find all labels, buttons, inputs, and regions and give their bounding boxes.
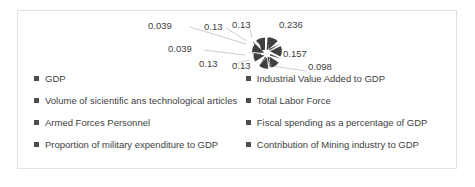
legend-bullet-icon [34, 142, 39, 147]
legend-item-label: Industrial Value Added to GDP [257, 73, 385, 84]
data-label-2: 0.13 [204, 22, 223, 32]
legend-item-label: Fiscal spending as a percentage of GDP [257, 117, 428, 128]
legend-item-label: GDP [45, 73, 66, 84]
legend-item-total-labor-force[interactable]: Total Labor Force [246, 95, 448, 106]
legend-bullet-icon [246, 98, 251, 103]
legend-item-gdp[interactable]: GDP [26, 73, 246, 84]
pie-body-lower-left [253, 53, 264, 61]
legend-item-label: Total Labor Force [257, 95, 331, 106]
legend-item-scientific-articles[interactable]: Volume of sicientific ans technological … [26, 95, 246, 106]
legend-item-label: Proportion of military expenditure to GD… [45, 139, 218, 150]
pie-body-lower-right [269, 57, 278, 68]
legend-item-label: Contribution of Mining industry to GDP [257, 139, 419, 150]
leader-line-5 [204, 50, 245, 55]
legend-bullet-icon [246, 120, 251, 125]
data-label-8: 0.039 [168, 44, 192, 54]
legend-bullet-icon [246, 76, 251, 81]
legend-item-label: Armed Forces Personnel [45, 117, 150, 128]
legend-item-fiscal-spending[interactable]: Fiscal spending as a percentage of GDP [246, 117, 448, 128]
legend-item-mining-industry[interactable]: Contribution of Mining industry to GDP [246, 139, 448, 150]
legend-item-industrial-value-added[interactable]: Industrial Value Added to GDP [246, 73, 448, 84]
data-label-4: 0.236 [279, 20, 303, 30]
legend-row: Proportion of military expenditure to GD… [26, 139, 448, 161]
legend-bullet-icon [34, 76, 39, 81]
legend-item-military-expenditure[interactable]: Proportion of military expenditure to GD… [26, 139, 246, 150]
chart-legend: GDP Industrial Value Added to GDP Volume… [18, 73, 456, 161]
legend-row: GDP Industrial Value Added to GDP [26, 73, 448, 95]
pie-slice-bodies [252, 37, 282, 68]
clipped-header-text: the formatted table of [0, 0, 300, 7]
legend-item-armed-forces-personnel[interactable]: Armed Forces Personnel [26, 117, 246, 128]
legend-bullet-icon [34, 120, 39, 125]
data-label-3: 0.13 [232, 20, 251, 30]
legend-item-label: Volume of sicientific ans technological … [45, 95, 237, 106]
data-label-7b: 0.13 [232, 61, 251, 71]
legend-row: Armed Forces Personnel Fiscal spending a… [26, 117, 448, 139]
chart-frame: 0.039 0.13 0.13 0.236 0.157 0.039 0.13 0… [17, 10, 457, 169]
legend-row: Volume of sicientific ans technological … [26, 95, 448, 117]
data-label-7a: 0.13 [199, 59, 218, 69]
pie-plot-area: 0.039 0.13 0.13 0.236 0.157 0.039 0.13 0… [18, 11, 456, 79]
data-label-6: 0.098 [308, 62, 332, 72]
data-label-5: 0.157 [283, 49, 307, 59]
data-label-1: 0.039 [148, 21, 172, 31]
legend-bullet-icon [34, 98, 39, 103]
clipped-header-text-value: the formatted table of [0, 0, 300, 2]
legend-bullet-icon [246, 142, 251, 147]
